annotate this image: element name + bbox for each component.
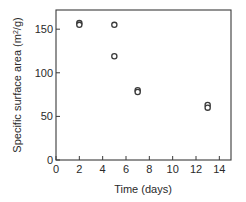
y-tick-label: 100 <box>35 67 53 79</box>
x-tick-label: 12 <box>190 163 202 175</box>
plot-border <box>56 10 231 160</box>
y-tick-label: 0 <box>47 154 53 166</box>
x-tick-label: 10 <box>167 163 179 175</box>
data-point-marker <box>112 22 117 27</box>
y-axis-label: Specific surface area (m2/g) <box>11 17 23 152</box>
x-tick-label: 14 <box>213 163 225 175</box>
x-axis-label: Time (days) <box>114 183 172 195</box>
data-point-marker <box>112 54 117 59</box>
x-tick-label: 4 <box>100 163 106 175</box>
data-point-marker <box>205 105 210 110</box>
data-point-marker <box>135 89 140 94</box>
plot-frame <box>56 10 231 160</box>
x-tick-label: 0 <box>53 163 59 175</box>
y-axis-label-main: Specific surface area (m <box>11 34 23 153</box>
x-tick-label: 8 <box>146 163 152 175</box>
y-tick-label: 150 <box>35 23 53 35</box>
x-axis-ticks: 02468101214 <box>53 156 226 175</box>
data-point-marker <box>77 22 82 27</box>
x-tick-label: 2 <box>76 163 82 175</box>
x-tick-label: 6 <box>123 163 129 175</box>
y-axis-label-tail: /g) <box>11 17 23 30</box>
data-points <box>77 20 211 110</box>
y-tick-label: 50 <box>41 110 53 122</box>
scatter-chart: 02468101214 050100150 Time (days) Specif… <box>0 0 246 202</box>
